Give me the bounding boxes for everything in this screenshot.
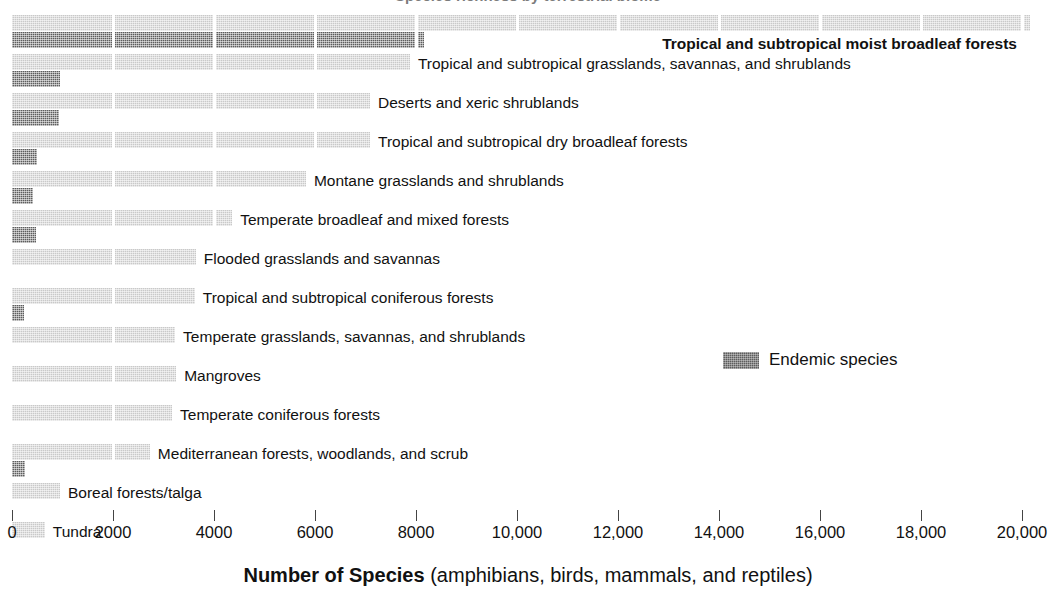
axis-tick-label: 16,000 [795,523,845,542]
chart-row: Temperate coniferous forests [0,405,1056,441]
chart-row: Temperate broadleaf and mixed forests [0,210,1056,246]
axis-tick-label: 4000 [196,523,233,542]
bar-segment-divider [213,54,216,87]
axis-tick-label: 8000 [398,523,435,542]
axis-tick [517,510,518,521]
chart-row: Temperate grasslands, savannas, and shru… [0,327,1056,363]
bar-label: Temperate coniferous forests [180,405,380,424]
bar-segment-divider [1021,15,1024,48]
bar-segment-divider [415,15,418,48]
bar-segment-divider [112,288,115,321]
bar-label: Flooded grasslands and savannas [204,249,440,268]
bar-total-species [12,366,176,382]
legend-swatch-endemic-species [723,352,759,369]
bar-total-species [12,444,150,460]
chart-title-text: Species richness by terrestrial biome [0,0,1056,4]
plot-area: Tropical and subtropical moist broadleaf… [0,13,1056,510]
bar-endemic-species [12,71,60,87]
bar-total-species [12,249,196,265]
bar-endemic-species [12,305,24,321]
axis-tick [1022,510,1023,521]
bar-segment-divider [213,132,216,165]
bar-endemic-species [12,110,59,126]
bar-label: Tropical and subtropical dry broadleaf f… [378,132,688,151]
axis-tick [820,510,821,521]
bar-segment-divider [112,54,115,87]
bar-label: Montane grasslands and shrublands [314,171,564,190]
bar-label: Tropical and subtropical grasslands, sav… [418,54,851,73]
axis-tick-label: 0 [7,523,16,542]
chart-row: Mediterranean forests, woodlands, and sc… [0,444,1056,480]
axis-tick-label: 18,000 [896,523,946,542]
bar-label: Tropical and subtropical moist broadleaf… [662,34,1017,53]
bar-segment-divider [112,366,115,382]
x-axis-title-strong: Number of Species [243,564,424,586]
bar-segment-divider [314,15,317,48]
bar-segment-divider [213,93,216,126]
chart-row: Montane grasslands and shrublands [0,171,1056,207]
bar-segment-divider [112,171,115,204]
chart-row: Tropical and subtropical grasslands, sav… [0,54,1056,90]
bar-segment-divider [112,249,115,265]
chart-row: Tropical and subtropical moist broadleaf… [0,15,1056,51]
bar-segment-divider [213,171,216,204]
x-axis-title: Number of Species (amphibians, birds, ma… [0,564,1056,587]
bar-label: Deserts and xeric shrublands [378,93,579,112]
axis-tick [12,510,13,521]
bar-segment-divider [213,15,216,48]
bar-total-species [12,54,410,70]
bar-segment-divider [314,93,317,126]
axis-tick-label: 10,000 [492,523,542,542]
chart-legend: Endemic species [723,350,898,370]
bar-label: Boreal forests/talga [68,483,202,502]
axis-tick-label: 6000 [297,523,334,542]
bar-endemic-species [12,149,37,165]
chart-row: Tropical and subtropical coniferous fore… [0,288,1056,324]
bar-segment-divider [314,132,317,165]
chart-row: Deserts and xeric shrublands [0,93,1056,129]
bar-segment-divider [112,405,115,421]
bar-endemic-species [12,32,424,48]
axis-tick [921,510,922,521]
bar-label: Temperate broadleaf and mixed forests [240,210,509,229]
axis-tick [416,510,417,521]
bar-segment-divider [112,15,115,48]
axis-tick-label: 2000 [95,523,132,542]
bar-segment-divider [213,210,216,243]
bar-segment-divider [617,15,620,48]
chart-row: Mangroves [0,366,1056,402]
bar-total-species [12,15,1030,31]
bar-endemic-species [12,188,33,204]
axis-tick [315,510,316,521]
x-axis: 0200040006000800010,00012,00014,00016,00… [0,510,1056,555]
bar-endemic-species [12,461,25,477]
x-axis-title-normal: (amphibians, birds, mammals, and reptile… [425,564,813,586]
axis-tick-label: 12,000 [593,523,643,542]
bar-endemic-species [12,227,36,243]
chart-title-cropped: Species richness by terrestrial biome [0,0,1056,13]
chart-row: Tropical and subtropical dry broadleaf f… [0,132,1056,168]
bar-total-species [12,171,306,187]
bar-label: Mangroves [184,366,261,385]
bar-segment-divider [112,132,115,165]
bar-total-species [12,288,195,304]
axis-tick [618,510,619,521]
axis-tick [719,510,720,521]
axis-tick [214,510,215,521]
bar-total-species [12,210,232,226]
bar-segment-divider [112,444,115,477]
bar-label: Temperate grasslands, savannas, and shru… [183,327,525,346]
bar-total-species [12,483,60,499]
bar-label: Mediterranean forests, woodlands, and sc… [158,444,468,463]
species-by-biome-chart: Species richness by terrestrial biome Tr… [0,0,1056,601]
bar-total-species [12,327,175,343]
axis-tick [113,510,114,521]
bar-segment-divider [112,93,115,126]
bar-segment-divider [112,327,115,343]
bar-segment-divider [516,15,519,48]
bar-segment-divider [112,210,115,243]
bar-total-species [12,405,172,421]
legend-label-endemic-species: Endemic species [769,350,898,370]
chart-row: Flooded grasslands and savannas [0,249,1056,285]
bar-label: Tropical and subtropical coniferous fore… [203,288,494,307]
